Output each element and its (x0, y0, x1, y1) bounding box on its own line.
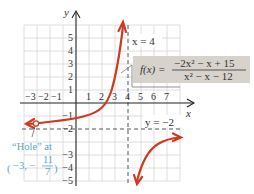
svg-text:6: 6 (151, 91, 156, 102)
svg-text:7: 7 (164, 91, 169, 102)
svg-text:2: 2 (68, 71, 73, 82)
vertical-asymptote-label: x = 4 (132, 35, 155, 47)
svg-text:(: ( (7, 163, 11, 175)
svg-text:−2: −2 (38, 91, 49, 102)
svg-text:−3: −3 (62, 149, 73, 160)
svg-text:−3, −: −3, − (13, 160, 35, 171)
svg-text:4: 4 (125, 91, 130, 102)
svg-text:3: 3 (112, 91, 117, 102)
x-axis-label: x (185, 107, 191, 119)
svg-text:−2: −2 (62, 123, 73, 134)
svg-text:x² − x − 12: x² − x − 12 (184, 70, 233, 82)
formula-box: f(x) = −2x² − x + 15 x² − x − 12 (133, 56, 250, 83)
x-tick-labels: −3 −2 −1 1 2 3 4 5 6 7 (25, 91, 169, 102)
svg-text:−1: −1 (51, 91, 62, 102)
right-branch (137, 138, 180, 182)
svg-text:f(x) =: f(x) = (140, 63, 165, 76)
hole-marker (33, 121, 38, 126)
svg-text:2: 2 (99, 91, 104, 102)
y-tick-labels: 5 4 3 2 1 −1 −2 −3 −4 −5 (62, 32, 73, 186)
svg-text:11: 11 (43, 154, 53, 165)
svg-text:1: 1 (86, 91, 91, 102)
svg-text:−4: −4 (62, 162, 73, 173)
svg-text:−3: −3 (25, 91, 36, 102)
rational-function-graph: y x −3 −2 −1 1 2 3 4 5 6 7 5 4 3 2 1 −1 … (0, 0, 254, 194)
svg-text:−2x² − x + 15: −2x² − x + 15 (174, 57, 235, 69)
svg-text:5: 5 (68, 32, 73, 43)
svg-text:1: 1 (68, 84, 73, 95)
svg-text:5: 5 (138, 91, 143, 102)
horizontal-asymptote-label: y = −2 (145, 116, 174, 128)
svg-text:“Hole” at: “Hole” at (12, 141, 52, 152)
svg-text:3: 3 (68, 58, 73, 69)
svg-text:−5: −5 (62, 175, 73, 186)
y-axis-label: y (63, 6, 69, 18)
svg-text:7: 7 (45, 166, 50, 177)
svg-text:): ) (54, 163, 58, 175)
svg-text:4: 4 (68, 45, 73, 56)
